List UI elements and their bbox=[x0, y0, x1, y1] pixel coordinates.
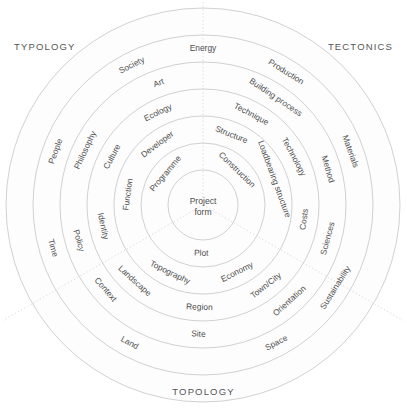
ring-label-energy: Energy bbox=[190, 43, 217, 53]
ring-label-site: Site bbox=[191, 328, 206, 339]
diagram-canvas: ProgrammeConstructionPlotDeveloperFuncti… bbox=[0, 0, 407, 408]
center-label-line1: Project bbox=[190, 196, 217, 206]
corner-label-typology: TYPOLOGY bbox=[14, 41, 75, 52]
ring-label-region: Region bbox=[186, 301, 213, 312]
center-label-line2: form bbox=[194, 207, 211, 217]
radial-diagram: ProgrammeConstructionPlotDeveloperFuncti… bbox=[0, 0, 407, 408]
corner-label-topology: TOPOLOGY bbox=[0, 386, 407, 397]
ring-label-plot: Plot bbox=[194, 247, 209, 258]
corner-label-tectonics: TECTONICS bbox=[328, 41, 393, 52]
